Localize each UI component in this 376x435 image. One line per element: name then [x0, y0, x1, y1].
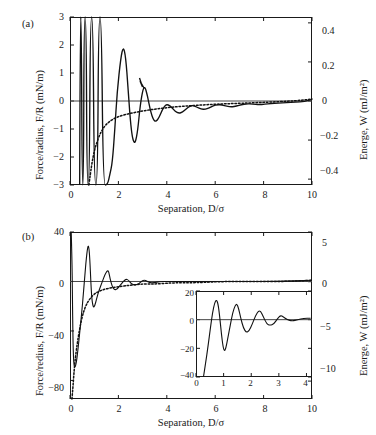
inset-xtick-2: 2 — [246, 378, 255, 388]
panel-b-ytick-left-1: 0 — [42, 278, 64, 289]
inset-ytick-3: −40 — [170, 370, 194, 380]
panel-b-ytick-right-1: 0 — [322, 278, 327, 289]
panel-b-inset-curve — [196, 291, 312, 377]
panel-b-xtick-2: 4 — [163, 403, 173, 414]
panel-b-ytick-right-0: 5 — [322, 237, 327, 248]
panel-a: (a) Force/radius, F/R (mN/m) Energe, W (… — [0, 0, 376, 218]
panel-b-ytick-left-3: −80 — [36, 382, 64, 393]
inset-ytick-1: 0 — [176, 316, 194, 326]
panel-b-xtick-5: 10 — [305, 403, 319, 414]
panel-b-ylabel-left: Force/redius, F/R (mN/m) — [34, 286, 45, 396]
inset-ytick-0: 20 — [176, 288, 194, 298]
panel-a-ytick-right-3: −0.2 — [320, 130, 338, 141]
panel-b-ytick-right-3: −10 — [320, 363, 336, 374]
panel-a-xtick-0: 0 — [66, 189, 76, 200]
panel-b-xtick-4: 8 — [260, 403, 270, 414]
panel-a-ytick-right-0: 0.4 — [322, 25, 335, 36]
panel-a-ytick-right-2: 0 — [322, 95, 327, 106]
panel-a-ytick-left-6: −3 — [44, 179, 64, 190]
panel-a-ytick-left-4: −1 — [44, 123, 64, 134]
inset-xtick-0: 0 — [192, 378, 201, 388]
panel-a-xtick-4: 8 — [260, 189, 270, 200]
panel-b-xtick-0: 0 — [66, 403, 76, 414]
panel-a-xlabel: Separation, D/σ — [131, 203, 251, 214]
panel-b-ytick-left-2: −40 — [36, 330, 64, 341]
panel-a-ylabel-right: Energe, W (mJ/m²) — [358, 80, 369, 160]
panel-b-ytick-right-2: −5 — [320, 321, 331, 332]
panel-a-ytick-left-1: 2 — [46, 39, 64, 50]
panel-a-arrow — [70, 17, 312, 185]
panel-b-ytick-left-0: 40 — [42, 226, 64, 237]
inset-xtick-1: 1 — [219, 378, 228, 388]
panel-a-xtick-2: 4 — [163, 189, 173, 200]
inset-xtick-3: 3 — [274, 378, 283, 388]
panel-b-letter: (b) — [22, 231, 34, 242]
panel-b-xtick-1: 2 — [114, 403, 124, 414]
inset-xtick-4: 4 — [301, 378, 310, 388]
panel-b-xtick-3: 6 — [211, 403, 221, 414]
panel-a-xtick-3: 6 — [211, 189, 221, 200]
panel-b-xlabel: Separation, D/σ — [131, 417, 251, 428]
panel-b-ylabel-right: Energe, W (mJ/m²) — [358, 296, 369, 376]
inset-ytick-2: −20 — [170, 344, 194, 354]
panel-a-letter: (a) — [22, 18, 34, 29]
panel-a-xtick-5: 10 — [305, 189, 319, 200]
panel-a-ytick-left-2: 1 — [46, 67, 64, 78]
panel-a-xtick-1: 2 — [114, 189, 124, 200]
panel-a-ytick-left-3: 0 — [46, 95, 64, 106]
panel-a-ytick-left-5: −2 — [44, 151, 64, 162]
panel-a-ytick-right-4: −0.4 — [320, 165, 338, 176]
panel-a-ytick-right-1: 0.2 — [322, 60, 335, 71]
panel-a-ytick-left-0: 3 — [46, 11, 64, 22]
panel-b: (b) Force/redius, F/R (mN/m) Energe, W (… — [0, 218, 376, 435]
